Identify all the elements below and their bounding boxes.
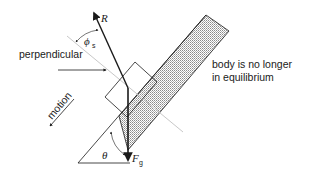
resultant-force-arrow [94,13,128,88]
resultant-label: R [100,12,108,24]
annotation-line-1: body is no longer [212,58,292,70]
angle-arc-lower [111,132,125,155]
angle-phi-label: ϕ [84,35,90,47]
gravity-subscript: g [139,159,143,167]
gravity-label: F [131,152,139,164]
incline-angle-label: θ [102,149,108,161]
annotation-line-2: in equilibrium [212,71,274,83]
perpendicular-label: perpendicular [19,48,83,60]
inclined-plane-diagram: R ϕ s perpendicular motion F g θ body is… [0,0,314,176]
angle-phi-subscript: s [92,42,96,49]
motion-label: motion [44,89,74,121]
motion-indicator: motion [44,89,74,121]
